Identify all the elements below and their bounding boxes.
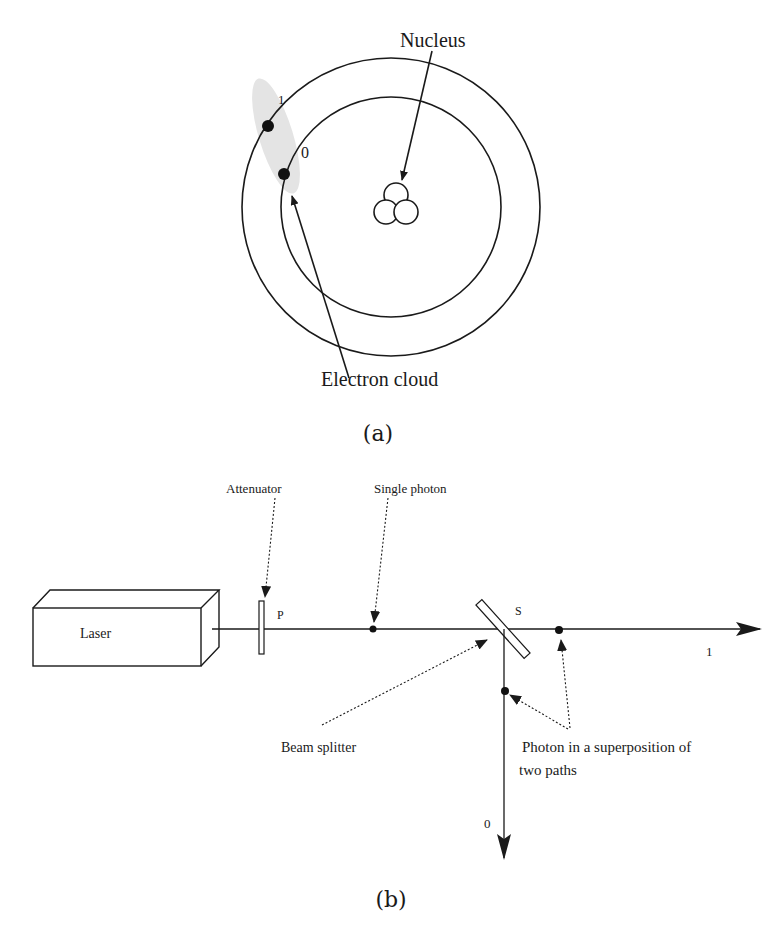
single-photon-pointer (374, 498, 388, 622)
photon-path-1-dot (555, 626, 563, 634)
beam-splitter-pointer (322, 640, 487, 725)
superposition-label-line1: Photon in a superposition of (522, 739, 691, 755)
electron-cloud-pointer (292, 196, 349, 378)
attenuator-symbol: P (277, 608, 284, 622)
single-photon-label: Single photon (374, 481, 447, 496)
electron-level-1 (262, 120, 274, 132)
beam-splitter-label: Beam splitter (281, 740, 356, 755)
nucleus-label: Nucleus (400, 29, 466, 51)
panel-a-label: (a) (363, 421, 393, 446)
laser-box (33, 590, 219, 666)
beam-splitter-diagram: Laser P Attenuator Single photon S Beam … (33, 481, 760, 912)
attenuator-label: Attenuator (226, 481, 282, 496)
path-0-label: 0 (484, 816, 491, 831)
superposition-pointer-0 (510, 695, 568, 729)
beam-splitter-symbol: S (515, 604, 522, 618)
figure-caption-cropped (60, 936, 760, 948)
atom-diagram: Nucleus 1 0 Electron cloud (a) (242, 29, 540, 446)
panel-b-label: (b) (375, 887, 406, 912)
path-1-label: 1 (706, 644, 713, 659)
orbit-outer-label: 1 (278, 92, 285, 107)
superposition-label-line2: two paths (519, 762, 577, 778)
single-photon-dot (370, 626, 377, 633)
electron-level-0 (278, 168, 290, 180)
laser-label: Laser (80, 626, 111, 641)
electron-cloud-shape (242, 74, 310, 199)
attenuator-pointer (265, 498, 275, 597)
photon-path-0-dot (501, 687, 509, 695)
orbit-inner-label: 0 (301, 144, 309, 161)
superposition-pointer-1 (561, 640, 570, 728)
nucleus-icon (374, 183, 418, 224)
electron-cloud-label: Electron cloud (321, 368, 438, 390)
figure: Nucleus 1 0 Electron cloud (a) Laser P A… (0, 0, 783, 948)
nucleus-pointer (402, 51, 432, 180)
attenuator-plate (259, 601, 264, 654)
